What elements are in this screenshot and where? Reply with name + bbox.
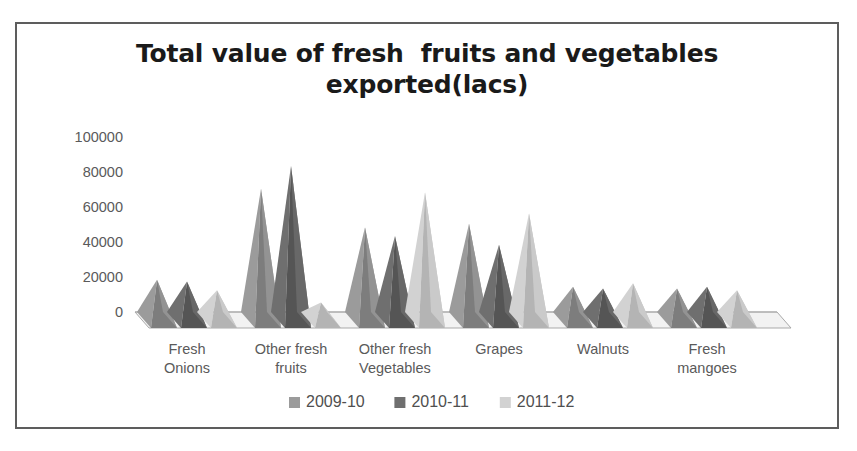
x-tick-label: Vegetables	[359, 360, 431, 376]
x-tick-label: Other fresh	[255, 341, 328, 357]
chart-frame: Total value of fresh fruits and vegetabl…	[15, 22, 839, 429]
bar-cone	[405, 192, 445, 328]
x-tick-label: Other fresh	[359, 341, 432, 357]
y-tick-label: 20000	[83, 269, 123, 285]
y-axis-tick-labels: 020000400006000080000100000	[75, 129, 123, 320]
x-tick-label: Onions	[164, 360, 210, 376]
x-tick-label: fruits	[275, 360, 306, 376]
x-tick-label: Walnuts	[577, 341, 629, 357]
y-tick-label: 60000	[83, 199, 123, 215]
x-tick-label: mangoes	[677, 360, 737, 376]
legend-label: 2010-11	[411, 393, 469, 410]
y-tick-label: 40000	[83, 234, 123, 250]
bar-series-group	[137, 166, 757, 328]
legend-swatch	[500, 397, 511, 408]
bar-cone	[271, 166, 311, 328]
x-tick-label: Fresh	[168, 341, 205, 357]
x-axis-category-labels: FreshOnionsOther freshfruitsOther freshV…	[164, 341, 737, 376]
x-tick-label: Grapes	[475, 341, 523, 357]
bar-cone	[509, 213, 549, 328]
x-tick-label: Fresh	[688, 341, 725, 357]
chart-plot-area: 020000400006000080000100000 FreshOnionsO…	[17, 24, 841, 431]
legend-swatch	[394, 397, 405, 408]
y-tick-label: 100000	[75, 129, 123, 145]
legend-swatch	[289, 397, 300, 408]
chart-legend: 2009-102010-112011-12	[289, 393, 574, 410]
legend-label: 2009-10	[306, 393, 365, 410]
y-tick-label: 0	[115, 304, 123, 320]
legend-label: 2011-12	[517, 393, 575, 410]
y-tick-label: 80000	[83, 164, 123, 180]
